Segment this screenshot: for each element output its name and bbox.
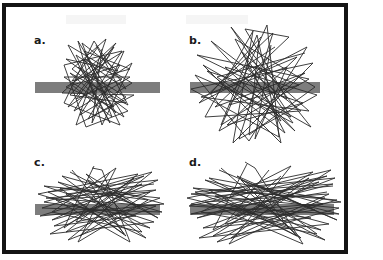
panel-a-scribble — [6, 7, 176, 132]
figure-frame: a. b. c. — [2, 3, 348, 254]
panel-d: d. — [161, 132, 351, 257]
panel-b: b. — [161, 7, 346, 147]
panel-d-scribble — [161, 132, 351, 257]
panel-c: c. — [6, 132, 176, 257]
panel-b-scribble — [161, 7, 346, 147]
panel-a: a. — [6, 7, 176, 132]
figure-canvas: a. b. c. — [0, 0, 383, 260]
panel-c-scribble — [6, 132, 176, 257]
